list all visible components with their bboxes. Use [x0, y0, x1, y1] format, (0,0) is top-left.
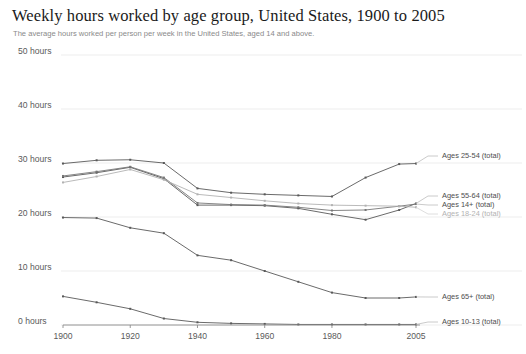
data-point-marker — [230, 197, 232, 199]
series-line-group — [62, 159, 417, 326]
data-point-marker — [196, 193, 198, 195]
x-axis-tick-label: 1940 — [188, 331, 207, 341]
legend-leader-line — [416, 204, 438, 205]
chart-container: Weekly hours worked by age group, United… — [0, 0, 526, 354]
data-point-marker — [264, 204, 266, 206]
data-point-marker — [398, 163, 400, 165]
y-axis-tick-label: 40 hours — [18, 100, 51, 110]
series-legend-label[interactable]: Ages 14+ (total) — [442, 200, 494, 209]
data-point-marker — [264, 193, 266, 195]
series-line — [63, 169, 416, 207]
data-point-marker — [230, 322, 232, 324]
data-point-marker — [297, 281, 299, 283]
data-point-marker — [196, 202, 198, 204]
legend-leader-line — [416, 196, 438, 204]
data-point-marker — [163, 318, 165, 320]
data-point-marker — [129, 166, 131, 168]
series-line — [63, 167, 416, 211]
data-point-marker — [230, 259, 232, 261]
leader-line-group — [416, 156, 438, 324]
y-axis-tick-label: 0 hours — [18, 316, 47, 326]
data-point-marker — [62, 217, 64, 219]
series-legend-label[interactable]: Ages 25-54 (total) — [442, 151, 501, 160]
data-point-marker — [96, 171, 98, 173]
series-legend-label[interactable]: Ages 65+ (total) — [442, 292, 494, 301]
data-point-marker — [163, 179, 165, 181]
data-point-marker — [163, 232, 165, 234]
y-axis-tick-label: 30 hours — [18, 154, 51, 164]
data-point-marker — [62, 175, 64, 177]
data-point-marker — [96, 159, 98, 161]
series-legend-label[interactable]: Ages 10-13 (total) — [442, 317, 501, 326]
x-axis-tick-label: 1900 — [53, 331, 72, 341]
series-line — [63, 218, 416, 298]
data-point-marker — [230, 204, 232, 206]
legend-leader-line — [416, 156, 438, 164]
x-axis-tick-label: 1980 — [322, 331, 341, 341]
data-point-marker — [96, 176, 98, 178]
data-point-marker — [96, 217, 98, 219]
data-point-marker — [398, 209, 400, 211]
data-point-marker — [196, 204, 198, 206]
x-axis-tick-label: 1960 — [255, 331, 274, 341]
data-point-marker — [62, 295, 64, 297]
data-point-marker — [230, 192, 232, 194]
legend-leader-line — [416, 322, 438, 324]
data-point-marker — [331, 210, 333, 212]
series-legend-label[interactable]: Ages 55-64 (total) — [442, 191, 501, 200]
data-point-marker — [129, 168, 131, 170]
data-point-marker — [129, 308, 131, 310]
data-point-marker — [196, 254, 198, 256]
series-line — [63, 160, 416, 197]
data-point-marker — [62, 163, 64, 165]
x-axis-tick-label: 2005 — [406, 331, 425, 341]
data-point-marker — [196, 187, 198, 189]
data-point-marker — [264, 270, 266, 272]
data-point-marker — [297, 203, 299, 205]
data-point-marker — [163, 177, 165, 179]
data-point-marker — [398, 205, 400, 207]
series-legend-label[interactable]: Ages 18-24 (total) — [442, 209, 501, 218]
data-point-marker — [96, 301, 98, 303]
data-point-marker — [365, 205, 367, 207]
data-point-marker — [297, 206, 299, 208]
data-point-marker — [264, 200, 266, 202]
data-point-marker — [129, 227, 131, 229]
data-point-marker — [365, 209, 367, 211]
y-axis-tick-label: 10 hours — [18, 262, 51, 272]
data-point-marker — [129, 159, 131, 161]
data-point-marker — [398, 297, 400, 299]
data-point-marker — [365, 219, 367, 221]
y-axis-tick-label: 20 hours — [18, 208, 51, 218]
data-point-marker — [297, 194, 299, 196]
data-point-marker — [365, 297, 367, 299]
data-point-marker — [331, 292, 333, 294]
y-axis-tick-label: 50 hours — [18, 46, 51, 56]
data-point-marker — [62, 181, 64, 183]
data-point-marker — [365, 177, 367, 179]
data-point-marker — [196, 321, 198, 323]
data-point-marker — [331, 204, 333, 206]
legend-leader-line — [416, 207, 438, 214]
x-axis-tick-label: 1920 — [121, 331, 140, 341]
data-point-marker — [163, 162, 165, 164]
data-point-marker — [331, 195, 333, 197]
gridline-group — [61, 55, 522, 325]
data-point-marker — [331, 213, 333, 215]
series-line — [63, 296, 416, 324]
